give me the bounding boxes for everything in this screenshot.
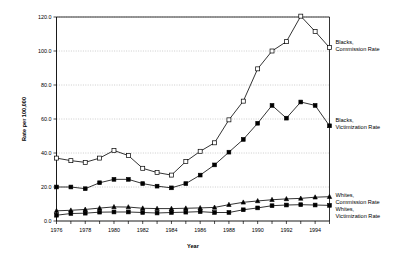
y-tick-label: 0.0 — [44, 218, 52, 224]
data-point-marker — [241, 138, 245, 142]
legend-label-2: Whites, — [336, 192, 355, 198]
legend-label-0: Commission Rate — [336, 46, 380, 52]
legend-label-3: Victimization Rate — [336, 213, 381, 219]
data-point-marker — [256, 206, 260, 210]
x-tick-label: 1984 — [165, 227, 177, 233]
legend: Blacks,Commission RateBlacks,Victimizati… — [336, 39, 381, 220]
data-point-marker — [213, 141, 217, 145]
x-tick-label: 1986 — [194, 227, 206, 233]
y-tick-label: 40.0 — [41, 150, 52, 156]
data-point-marker — [126, 177, 130, 181]
data-point-marker — [126, 154, 130, 158]
y-tick-label: 20.0 — [41, 184, 52, 190]
x-tick-label: 1988 — [223, 227, 235, 233]
data-point-marker — [213, 163, 217, 167]
x-tick-label: 1982 — [137, 227, 149, 233]
data-point-marker — [184, 160, 188, 164]
data-point-marker — [198, 149, 202, 153]
data-point-marker — [69, 212, 73, 216]
data-point-marker — [270, 49, 274, 53]
data-point-marker — [83, 187, 87, 191]
data-point-marker — [213, 211, 217, 215]
data-point-marker — [112, 148, 116, 152]
data-point-marker — [69, 159, 73, 163]
legend-label-3: Whites, — [336, 206, 355, 212]
data-point-marker — [284, 116, 288, 120]
data-point-marker — [256, 121, 260, 125]
data-point-marker — [241, 208, 245, 212]
data-point-marker — [98, 181, 102, 185]
y-tick-label: 100.0 — [38, 48, 52, 54]
data-point-marker — [328, 46, 332, 50]
y-axis-title: Rate per 100,000 — [21, 97, 27, 141]
legend-label-2: Commission Rate — [336, 199, 380, 205]
data-point-marker — [55, 156, 59, 160]
data-point-marker — [155, 171, 159, 175]
y-tick-label: 120.0 — [38, 14, 52, 20]
x-tick-label: 1990 — [252, 227, 264, 233]
data-point-marker — [313, 203, 317, 207]
data-point-marker — [299, 100, 303, 104]
data-point-marker — [126, 210, 130, 214]
x-tick-label: 1978 — [79, 227, 91, 233]
data-point-marker — [328, 203, 332, 207]
data-point-marker — [141, 166, 145, 170]
data-point-marker — [83, 211, 87, 215]
data-point-marker — [155, 184, 159, 188]
data-point-marker — [284, 40, 288, 44]
data-point-marker — [83, 160, 87, 164]
series-group — [54, 14, 331, 217]
data-point-marker — [227, 118, 231, 122]
data-point-marker — [299, 203, 303, 207]
data-point-marker — [256, 67, 260, 71]
legend-label-0: Blacks, — [336, 39, 354, 45]
data-point-marker — [227, 211, 231, 215]
y-axis: 0.020.040.060.080.0100.0120.0 — [38, 14, 57, 224]
data-point-marker — [170, 211, 174, 215]
data-point-marker — [55, 185, 59, 189]
series-3 — [55, 203, 332, 217]
legend-label-1: Victimization Rate — [336, 124, 381, 130]
data-point-marker — [141, 211, 145, 215]
series-line-path — [57, 102, 330, 189]
y-tick-label: 60.0 — [41, 116, 52, 122]
data-point-marker — [169, 173, 173, 177]
data-point-marker — [328, 124, 332, 128]
series-0 — [55, 14, 332, 177]
x-tick-label: 1980 — [108, 227, 120, 233]
data-point-marker — [241, 99, 245, 103]
data-point-marker — [313, 104, 317, 108]
data-point-marker — [141, 182, 145, 186]
data-point-marker — [198, 173, 202, 177]
legend-label-1: Blacks, — [336, 117, 354, 123]
series-1 — [55, 100, 332, 191]
data-point-marker — [170, 186, 174, 190]
data-point-marker — [112, 210, 116, 214]
data-point-marker — [313, 29, 317, 33]
chart-container: 0.020.040.060.080.0100.0120.0 1976197819… — [0, 0, 403, 256]
x-tick-label: 1976 — [51, 227, 63, 233]
x-tick-label: 1994 — [309, 227, 321, 233]
x-tick-label: 1992 — [280, 227, 292, 233]
data-point-marker — [98, 210, 102, 214]
data-point-marker — [227, 150, 231, 154]
data-point-marker — [270, 204, 274, 208]
data-point-marker — [198, 210, 202, 214]
data-point-marker — [184, 210, 188, 214]
data-point-marker — [98, 156, 102, 160]
x-axis: 1976197819801982198419861988199019921994 — [51, 221, 330, 233]
data-point-marker — [284, 203, 288, 207]
data-point-marker — [270, 104, 274, 108]
data-point-marker — [69, 185, 73, 189]
data-point-marker — [155, 211, 159, 215]
series-2 — [54, 194, 331, 212]
data-point-marker — [55, 213, 59, 217]
line-chart: 0.020.040.060.080.0100.0120.0 1976197819… — [0, 0, 403, 256]
data-point-marker — [184, 182, 188, 186]
data-point-marker — [112, 177, 116, 181]
data-point-marker — [299, 14, 303, 18]
x-axis-title: Year — [187, 243, 200, 249]
y-tick-label: 80.0 — [41, 82, 52, 88]
